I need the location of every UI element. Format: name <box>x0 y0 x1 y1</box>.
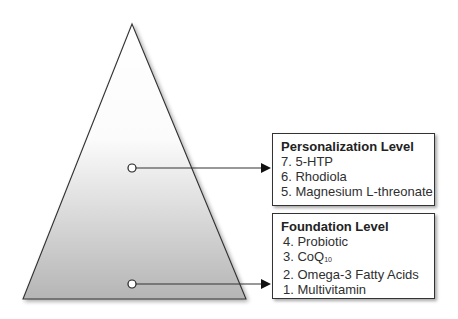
personalization-arrowhead-icon <box>261 163 271 173</box>
level-item: 6. Rhodiola <box>281 169 434 184</box>
level-item: 7. 5-HTP <box>281 154 434 169</box>
level-item: 3. CoQ10 <box>281 249 434 267</box>
personalization-level-box: Personalization Level 7. 5-HTP 6. Rhodio… <box>272 133 435 206</box>
pyramid-triangle <box>23 24 246 299</box>
coq-subscript: 10 <box>324 256 332 263</box>
foundation-arrowhead-icon <box>261 279 271 289</box>
coq-label: 3. CoQ <box>283 249 324 264</box>
level-item: 1. Multivitamin <box>281 282 434 297</box>
level-item: 5. Magnesium L-threonate <box>281 184 434 199</box>
personalization-marker-icon <box>128 164 136 172</box>
personalization-level-title: Personalization Level <box>281 139 434 154</box>
foundation-level-box: Foundation Level 4. Probiotic 3. CoQ10 2… <box>272 213 435 299</box>
level-item: 2. Omega-3 Fatty Acids <box>281 267 434 282</box>
foundation-level-title: Foundation Level <box>281 219 434 234</box>
foundation-marker-icon <box>128 280 136 288</box>
level-item: 4. Probiotic <box>281 234 434 249</box>
